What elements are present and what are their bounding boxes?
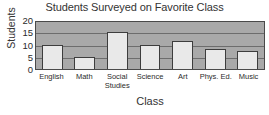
bar [205,49,226,69]
x-axis-tick-label: Math [68,73,101,95]
bar [42,45,63,70]
bar-slot [101,22,134,69]
bar-slot [69,22,102,69]
y-axis-tick-label: 0 [13,65,33,75]
x-axis-tick-label: Music [232,73,265,95]
chart-title: Students Surveyed on Favorite Class [0,1,269,14]
bar-slot [199,22,232,69]
y-axis-tick-label: 5 [13,53,33,63]
x-axis-tick-labels: EnglishMathSocial StudiesScienceArtPhys.… [35,73,265,95]
bar-slot [134,22,167,69]
x-axis-tick-label: Science [134,73,167,95]
bar [107,32,128,69]
bar-series [36,22,264,69]
x-axis-tick-label: English [35,73,68,95]
bar [237,51,258,69]
bar [172,41,193,69]
bar-chart: Students Surveyed on Favorite Class Stud… [0,0,269,115]
x-axis-tick-label: Social Studies [101,73,134,95]
x-axis-title: Class [35,95,265,108]
y-axis-tick-label: 10 [13,41,33,51]
bar-slot [166,22,199,69]
y-axis-tick-label: 20 [13,16,33,26]
bar [140,45,161,70]
x-axis-tick-label: Art [166,73,199,95]
bar-slot [36,22,69,69]
plot-area [35,21,265,70]
x-axis-tick-label: Phys. Ed. [199,73,232,95]
y-axis-tick-labels: 05101520 [13,15,33,75]
y-axis-tick-label: 15 [13,28,33,38]
bar [74,57,95,69]
bar-slot [231,22,264,69]
